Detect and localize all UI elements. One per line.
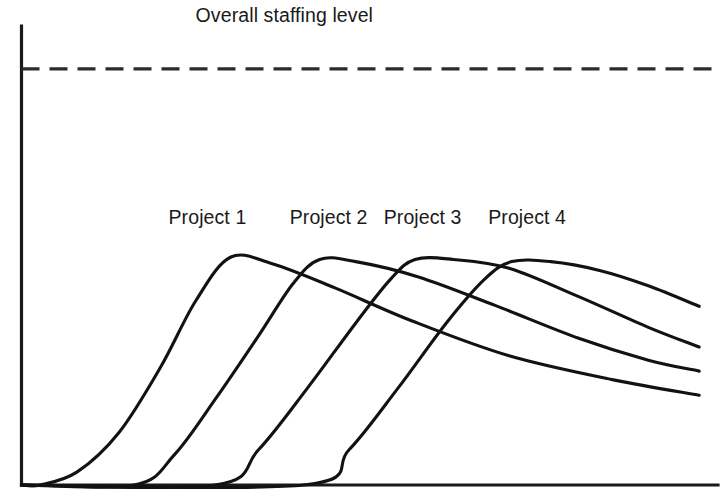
curves-group [22,255,700,488]
series-label-project-2: Project 2 [290,206,368,228]
curve-project-4 [22,260,700,488]
curve-project-3 [22,258,700,488]
chart-canvas: Overall staffing level Project 1 Project… [0,0,726,502]
series-label-project-3: Project 3 [384,206,462,228]
axes-group [22,26,719,485]
curve-project-2 [22,258,700,488]
staffing-profile-chart: Overall staffing level Project 1 Project… [0,0,726,502]
labels-group: Overall staffing level Project 1 Project… [169,4,567,228]
series-label-project-4: Project 4 [488,206,566,228]
curve-project-1 [22,255,700,486]
series-label-project-1: Project 1 [169,206,247,228]
overall-staffing-level-label: Overall staffing level [196,4,373,26]
